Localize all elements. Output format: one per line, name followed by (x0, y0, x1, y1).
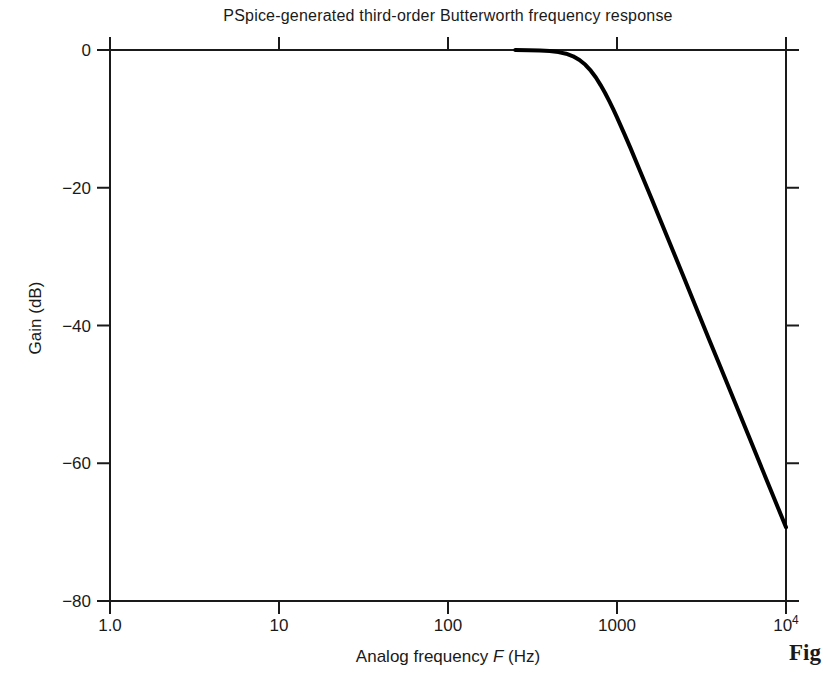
y-tick-label: −60 (62, 454, 91, 473)
x-axis-label: Analog frequency F (Hz) (110, 647, 786, 667)
response-curve (515, 50, 786, 527)
y-tick-label: −80 (62, 592, 91, 611)
plot-border (110, 50, 786, 601)
x-axis-label-symbol: F (493, 647, 503, 666)
tick-labels: 1.01010010001040−20−40−60−80 (62, 41, 799, 635)
x-tick-label: 10 (270, 616, 289, 635)
y-tick-label: −40 (62, 317, 91, 336)
y-tick-label: −20 (62, 179, 91, 198)
figure-caption: Fig (789, 640, 821, 666)
x-axis-label-pre: Analog frequency (356, 647, 493, 666)
x-tick-label: 1.0 (98, 616, 122, 635)
x-tick-label: 104 (773, 613, 799, 635)
x-tick-label: 1000 (598, 616, 636, 635)
plot-area: 1.01010010001040−20−40−60−80 (0, 0, 828, 680)
axis-ticks (97, 37, 799, 614)
x-axis-label-post: (Hz) (503, 647, 540, 666)
y-tick-label: 0 (82, 41, 91, 60)
figure-page: PSpice-generated third-order Butterworth… (0, 0, 828, 680)
x-tick-label: 100 (434, 616, 462, 635)
